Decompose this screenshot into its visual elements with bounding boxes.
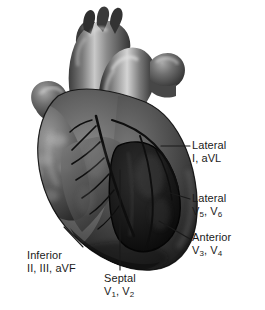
label-region: Septal — [104, 272, 136, 285]
label-region: Lateral — [192, 192, 226, 205]
label-region: Inferior — [27, 249, 76, 262]
label-lateral-v5-v6: Lateral V5, V6 — [192, 192, 226, 219]
label-region: Anterior — [192, 231, 231, 244]
label-inferior-ii-iii-avf: Inferior II, III, aVF — [27, 249, 76, 274]
label-septal-v1-v2: Septal V1, V2 — [104, 272, 136, 299]
lead-subscript: 2 — [130, 290, 135, 299]
lead-subscript: 6 — [218, 210, 223, 219]
label-anterior-v3-v4: Anterior V3, V4 — [192, 231, 231, 258]
label-region: Lateral — [192, 139, 226, 152]
lead-subscript: 5 — [199, 210, 204, 219]
label-leads: V5, V6 — [192, 205, 226, 220]
label-leads: V1, V2 — [104, 285, 136, 300]
heart-ecg-territory-figure: Lateral I, aVL Lateral V5, V6 Anterior V… — [0, 0, 265, 310]
lead-subscript: 1 — [111, 290, 116, 299]
label-leads: V3, V4 — [192, 244, 231, 259]
label-lateral-i-avl: Lateral I, aVL — [192, 139, 226, 164]
label-leads: II, III, aVF — [27, 262, 76, 275]
lead-subscript: 3 — [199, 249, 204, 258]
heart-body — [19, 89, 202, 274]
label-leads: I, aVL — [192, 152, 226, 165]
lead-subscript: 4 — [218, 249, 223, 258]
right-pulmonary-artery — [150, 53, 185, 98]
